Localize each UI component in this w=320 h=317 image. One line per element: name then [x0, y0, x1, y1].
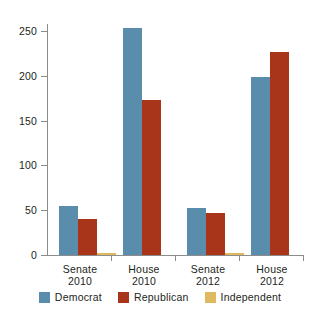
legend-item-independent: Independent [205, 292, 282, 303]
bar-group-house-2012 [251, 24, 309, 255]
x-category-label-house-2010: House 2010 [113, 263, 175, 287]
bar-chart: 0 50 100 150 200 250 [0, 0, 320, 317]
y-tick-label: 200 [19, 71, 37, 82]
plot-area [47, 24, 303, 255]
legend-item-democrat: Democrat [39, 292, 102, 303]
y-tick-label: 50 [25, 205, 37, 216]
bar-republican-house-2012 [270, 52, 289, 255]
bar-democrat-senate-2012 [187, 208, 206, 255]
bar-democrat-house-2010 [123, 28, 142, 255]
legend-item-republican: Republican [118, 292, 189, 303]
x-category-line1: Senate [177, 263, 239, 275]
legend-swatch-democrat-icon [39, 292, 50, 303]
x-category-line2: 2010 [113, 275, 175, 287]
x-tick-mark [239, 256, 240, 261]
x-category-line2: 2012 [177, 275, 239, 287]
legend-swatch-republican-icon [118, 292, 129, 303]
legend-label-republican: Republican [134, 292, 189, 303]
bar-group-senate-2010 [59, 24, 117, 255]
x-category-line2: 2010 [49, 275, 111, 287]
x-category-line1: House [113, 263, 175, 275]
legend-label-democrat: Democrat [55, 292, 102, 303]
x-category-label-senate-2010: Senate 2010 [49, 263, 111, 287]
bar-independent-senate-2010 [97, 253, 116, 255]
x-category-label-senate-2012: Senate 2012 [177, 263, 239, 287]
x-category-label-house-2012: House 2012 [241, 263, 303, 287]
x-tick-mark [111, 256, 112, 261]
chart-legend: Democrat Republican Independent [0, 292, 320, 303]
y-tick-label: 0 [31, 250, 37, 261]
bar-group-house-2010 [123, 24, 181, 255]
bar-republican-senate-2012 [206, 213, 225, 255]
x-category-line2: 2012 [241, 275, 303, 287]
bar-independent-senate-2012 [225, 253, 244, 255]
legend-label-independent: Independent [221, 292, 282, 303]
x-tick-mark [303, 256, 304, 261]
legend-swatch-independent-icon [205, 292, 216, 303]
bar-group-senate-2012 [187, 24, 245, 255]
bar-republican-senate-2010 [78, 219, 97, 255]
y-tick-mark [41, 255, 47, 256]
x-category-line1: House [241, 263, 303, 275]
bar-democrat-house-2012 [251, 77, 270, 255]
y-tick-label: 100 [19, 160, 37, 171]
bar-republican-house-2010 [142, 100, 161, 255]
y-tick-label: 250 [19, 26, 37, 37]
bar-democrat-senate-2010 [59, 206, 78, 255]
x-tick-mark [175, 256, 176, 261]
y-tick-label: 150 [19, 116, 37, 127]
x-category-line1: Senate [49, 263, 111, 275]
